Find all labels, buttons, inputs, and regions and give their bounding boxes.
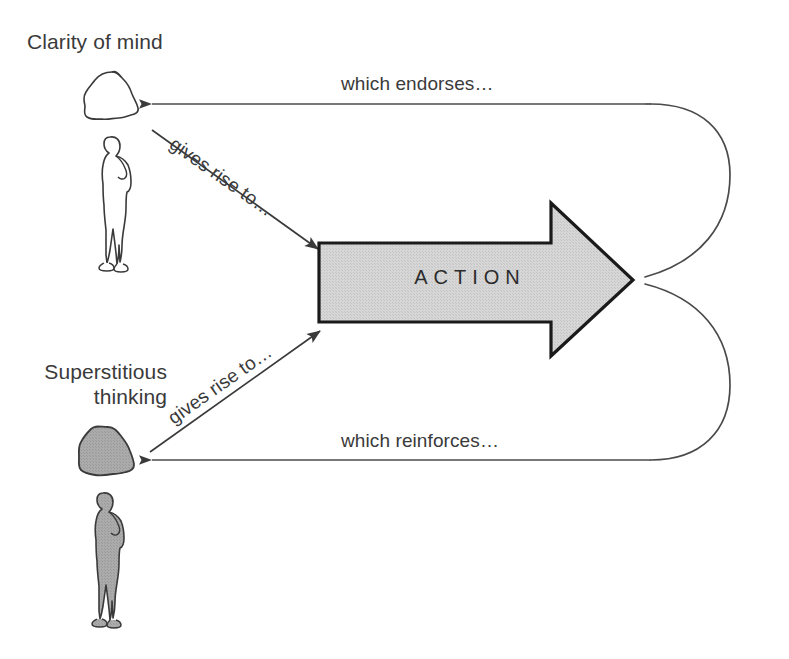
clear-mind-blob-icon: [84, 71, 138, 119]
action-label: ACTION: [370, 266, 570, 289]
superstitious-thinking-label: Superstitiousthinking: [32, 360, 167, 410]
superstitious-thinking-label-line1: Superstitious: [32, 360, 167, 385]
clarity-of-mind-label: Clarity of mind: [27, 30, 163, 55]
diagram-graphics: [0, 0, 789, 659]
which-reinforces-label: which reinforces…: [341, 430, 499, 452]
standing-person-filled-icon: [92, 493, 124, 628]
standing-person-outline-icon: [99, 137, 132, 272]
gives-rise-to-bottom-connector: [150, 331, 320, 452]
which-endorses-label: which endorses…: [341, 73, 494, 95]
diagram-canvas: Clarity of mind Superstitiousthinking wh…: [0, 0, 789, 659]
clouded-mind-blob-icon: [79, 427, 134, 476]
superstitious-thinking-label-line2: thinking: [32, 385, 167, 410]
